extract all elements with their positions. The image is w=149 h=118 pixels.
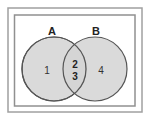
region-only-b: 4 xyxy=(98,65,104,76)
set-b-label: B xyxy=(92,25,100,37)
venn-diagram: A B 1 2 3 4 xyxy=(0,0,149,118)
set-a-label: A xyxy=(48,25,56,37)
region-only-a: 1 xyxy=(44,65,50,76)
region-intersection-top: 2 xyxy=(72,59,78,70)
region-intersection-bottom: 3 xyxy=(72,71,78,82)
